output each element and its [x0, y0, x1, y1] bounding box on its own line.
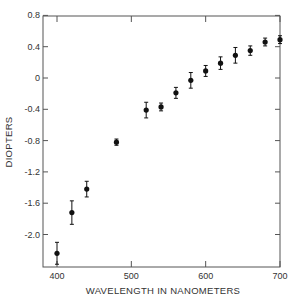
- x-tick-label: 400: [49, 271, 64, 281]
- data-point: [263, 38, 268, 46]
- y-tick-label: 0: [35, 73, 40, 83]
- axes: [43, 15, 280, 267]
- x-tick-label: 600: [198, 271, 213, 281]
- x-tick-label: 500: [124, 271, 139, 281]
- data-point: [203, 65, 208, 76]
- data-point: [218, 57, 223, 70]
- y-tick-label: -1.2: [24, 167, 40, 177]
- data-point: [114, 139, 119, 145]
- plot-frame: [43, 16, 280, 267]
- data-point: [277, 36, 282, 44]
- data-point: [69, 201, 74, 224]
- data-point: [84, 181, 89, 197]
- data-point: [188, 73, 193, 89]
- data-point: [173, 87, 178, 98]
- y-axis-title: DIOPTERS: [3, 117, 14, 168]
- x-tick-label: 700: [272, 271, 287, 281]
- y-tick-label: -2.0: [24, 230, 40, 240]
- x-axis-title: WAVELENGTH IN NANOMETERS: [86, 285, 240, 296]
- chart: 0.80.40-0.4-0.8-1.2-1.6-2.0400500600700 …: [0, 0, 293, 303]
- y-tick-label: -0.4: [24, 104, 40, 114]
- data-points: [54, 36, 282, 264]
- data-point: [248, 46, 253, 55]
- data-point: [233, 47, 238, 63]
- data-point: [54, 242, 59, 264]
- data-point: [158, 103, 163, 111]
- data-point: [144, 102, 149, 118]
- y-tick-label: 0.8: [27, 10, 40, 20]
- y-tick-label: -1.6: [24, 198, 40, 208]
- y-tick-label: -0.8: [24, 136, 40, 146]
- y-tick-label: 0.4: [27, 42, 40, 52]
